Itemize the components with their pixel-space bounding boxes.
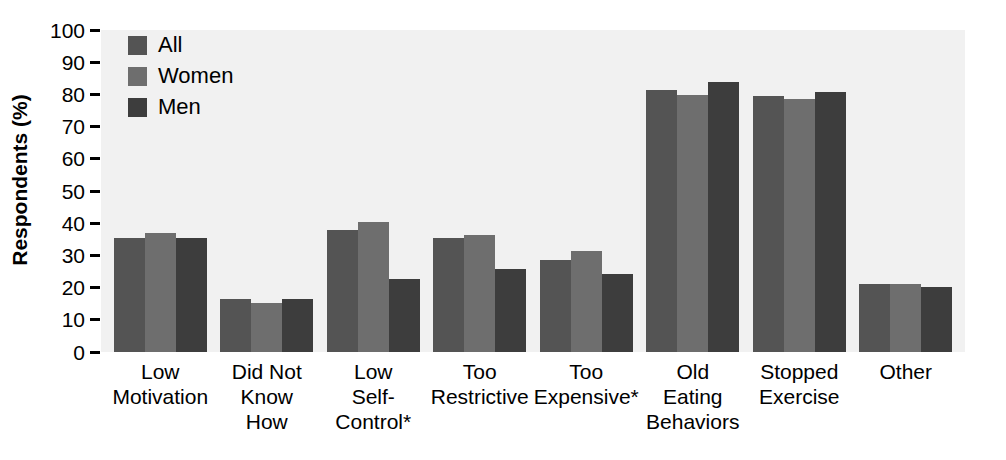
legend-swatch-icon <box>128 98 147 117</box>
bar <box>358 222 389 352</box>
x-axis-label: Too Restrictive <box>427 360 534 434</box>
y-axis-tick-label: 80 <box>62 84 90 105</box>
y-axis-tick-mark <box>90 318 100 321</box>
bar <box>677 95 708 352</box>
x-axis-label: Too Expensive* <box>533 360 640 434</box>
legend-item: Men <box>128 94 233 120</box>
legend-swatch-icon <box>128 67 147 86</box>
y-axis-tick-label: 40 <box>62 213 90 234</box>
bar <box>433 238 464 352</box>
y-axis-tick-label: 90 <box>62 52 90 73</box>
y-axis-ticks: 1009080706050403020100 <box>42 30 100 352</box>
y-axis-tick-mark <box>90 125 100 128</box>
legend-item-label: Men <box>158 96 201 118</box>
bar-group <box>640 30 747 352</box>
legend-item: Women <box>128 63 233 89</box>
bar <box>495 269 526 352</box>
bar <box>282 299 313 352</box>
bar-group <box>427 30 534 352</box>
legend-item-label: All <box>158 34 182 56</box>
bar <box>921 287 952 352</box>
y-axis-tick-label: 60 <box>62 148 90 169</box>
bar <box>176 238 207 352</box>
y-axis-tick-label: 20 <box>62 277 90 298</box>
y-axis-tick-label: 50 <box>62 181 90 202</box>
bar <box>220 299 251 352</box>
bar-group <box>853 30 960 352</box>
y-axis-tick-mark <box>90 286 100 289</box>
bar <box>571 251 602 352</box>
plot-area: AllWomenMen <box>101 30 965 352</box>
bar <box>251 303 282 352</box>
bar <box>753 96 784 352</box>
x-axis-label: Stopped Exercise <box>746 360 853 434</box>
x-axis-label: Old Eating Behaviors <box>640 360 747 434</box>
bar-group <box>746 30 853 352</box>
bar <box>540 260 571 352</box>
y-axis-tick-label: 10 <box>62 309 90 330</box>
y-axis-tick-mark <box>90 222 100 225</box>
bar <box>859 284 890 352</box>
y-axis-tick-mark <box>90 351 100 354</box>
bar <box>327 230 358 352</box>
legend-swatch-icon <box>128 36 147 55</box>
legend-item-label: Women <box>158 65 233 87</box>
y-axis-tick-mark <box>90 254 100 257</box>
bar-group <box>533 30 640 352</box>
y-axis-tick-mark <box>90 157 100 160</box>
y-axis-tick-label: 30 <box>62 245 90 266</box>
y-axis-title-text: Respondents (%) <box>8 94 32 266</box>
x-axis-labels: Low MotivationDid Not Know HowLow Self- … <box>101 360 965 434</box>
bar <box>784 99 815 352</box>
y-axis-tick-mark <box>90 190 100 193</box>
x-axis-label: Did Not Know How <box>214 360 321 434</box>
x-axis-label: Low Self- Control* <box>320 360 427 434</box>
bar <box>464 235 495 352</box>
y-axis-tick-label: 0 <box>73 342 90 363</box>
bar <box>646 90 677 352</box>
y-axis-tick-mark <box>90 29 100 32</box>
chart-legend: AllWomenMen <box>128 32 233 120</box>
y-axis-tick-label: 100 <box>50 20 90 41</box>
bar <box>890 284 921 352</box>
bar <box>145 233 176 352</box>
y-axis-tick-label: 70 <box>62 116 90 137</box>
y-axis-tick-mark <box>90 61 100 64</box>
y-axis-tick-mark <box>90 93 100 96</box>
x-axis-label: Other <box>853 360 960 434</box>
x-axis-label: Low Motivation <box>107 360 214 434</box>
bar <box>815 92 846 352</box>
bar <box>114 238 145 352</box>
bar <box>708 82 739 352</box>
bar <box>602 274 633 352</box>
y-axis-title: Respondents (%) <box>0 0 40 360</box>
bar-chart-figure: Respondents (%) 1009080706050403020100 A… <box>0 0 1006 460</box>
legend-item: All <box>128 32 233 58</box>
bar-group <box>320 30 427 352</box>
bar <box>389 279 420 352</box>
